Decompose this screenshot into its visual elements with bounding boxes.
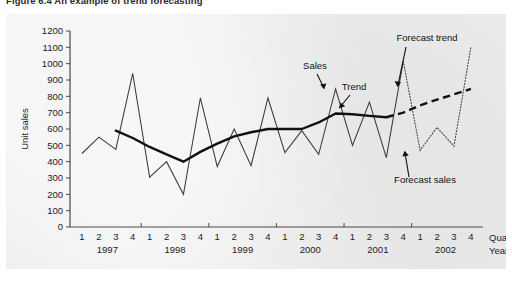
y-axis-tick-labels: 0100200300400500600700800900100011001200 xyxy=(42,25,63,232)
x-year-label-2001: 2001 xyxy=(367,244,388,255)
annotation-forecast-sales-label: Forecast sales xyxy=(394,174,456,185)
x-tick-label-q3: 3 xyxy=(113,231,118,242)
x-tick-label-q1: 1 xyxy=(350,231,355,242)
figure-root: Figure 6.4 An example of trend forecasti… xyxy=(0,0,512,281)
x-tick-label-q2: 2 xyxy=(367,231,372,242)
x-axis-year-title: Year xyxy=(489,245,506,256)
x-axis-year-labels: 199719981999200020012002 xyxy=(97,244,456,255)
x-tick-label-q1: 1 xyxy=(79,231,84,242)
x-tick-label-q2: 2 xyxy=(164,231,169,242)
x-tick-label-q1: 1 xyxy=(147,231,152,242)
y-tick-label: 100 xyxy=(47,205,63,216)
x-tick-label-q3: 3 xyxy=(316,231,321,242)
y-tick-label: 800 xyxy=(47,91,63,102)
y-axis-title: Unit sales xyxy=(19,108,30,150)
x-tick-label-q1: 1 xyxy=(282,231,287,242)
x-tick-label-q4: 4 xyxy=(468,231,473,242)
trend-forecast-chart: 0100200300400500600700800900100011001200… xyxy=(6,14,506,269)
annotation-sales: Sales xyxy=(303,60,327,90)
x-tick-label-q3: 3 xyxy=(248,231,253,242)
annotation-forecast-sales: Forecast sales xyxy=(394,151,456,185)
x-tick-label-q3: 3 xyxy=(451,231,456,242)
annotation-forecast-sales-arrow-head xyxy=(402,151,408,157)
x-tick-label-q3: 3 xyxy=(384,231,389,242)
y-tick-label: 600 xyxy=(47,123,63,134)
annotation-forecast-trend-label: Forecast trend xyxy=(396,32,457,43)
y-tick-label: 300 xyxy=(47,172,63,183)
x-axis-tick-labels: 123412341234123412341234 xyxy=(79,231,473,242)
chart-panel: 0100200300400500600700800900100011001200… xyxy=(6,14,506,269)
y-tick-label: 500 xyxy=(47,140,63,151)
x-tick-label-q2: 2 xyxy=(232,231,237,242)
x-year-label-2000: 2000 xyxy=(300,244,321,255)
y-tick-label: 1200 xyxy=(42,25,63,36)
x-tick-label-q4: 4 xyxy=(130,231,135,242)
x-tick-label-q4: 4 xyxy=(401,231,406,242)
series-trend-line xyxy=(116,113,387,161)
x-tick-label-q4: 4 xyxy=(265,231,270,242)
annotation-sales-arrow-head xyxy=(320,83,326,89)
x-tick-label-q2: 2 xyxy=(299,231,304,242)
annotation-trend-label: Trend xyxy=(342,81,366,92)
figure-caption: Figure 6.4 An example of trend forecasti… xyxy=(6,0,203,6)
y-tick-label: 0 xyxy=(58,221,63,232)
y-tick-label: 1000 xyxy=(42,58,63,69)
x-tick-label-q3: 3 xyxy=(181,231,186,242)
x-tick-label-q2: 2 xyxy=(434,231,439,242)
x-year-label-1999: 1999 xyxy=(232,244,253,255)
x-axis-title: Quartes xyxy=(489,232,506,243)
annotation-forecast-trend-arrow-line xyxy=(398,47,406,85)
y-tick-label: 900 xyxy=(47,74,63,85)
y-tick-label: 400 xyxy=(47,156,63,167)
x-tick-label-q2: 2 xyxy=(96,231,101,242)
series-forecast-trend-line xyxy=(386,89,471,117)
x-year-label-1997: 1997 xyxy=(97,244,118,255)
y-tick-label: 1100 xyxy=(43,42,63,53)
x-tick-label-q1: 1 xyxy=(417,231,422,242)
x-tick-label-q4: 4 xyxy=(198,231,203,242)
annotation-sales-label: Sales xyxy=(303,60,327,71)
annotation-trend: Trend xyxy=(339,81,366,108)
x-tick-label-q1: 1 xyxy=(215,231,220,242)
y-tick-label: 700 xyxy=(47,107,63,118)
x-tick-label-q4: 4 xyxy=(333,231,338,242)
annotation-forecast-trend: Forecast trend xyxy=(395,32,458,87)
x-year-label-1998: 1998 xyxy=(164,244,185,255)
x-year-label-2002: 2002 xyxy=(435,244,456,255)
y-tick-label: 200 xyxy=(47,189,63,200)
